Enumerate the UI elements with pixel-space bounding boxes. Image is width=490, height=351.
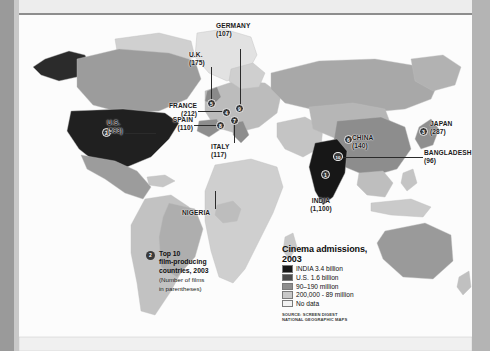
legend-title: Cinema admissions, 2003 xyxy=(282,244,410,264)
label-italy-name: ITALY xyxy=(211,143,229,150)
marker-bangladesh[interactable]: 10 xyxy=(333,152,343,161)
land-indonesia xyxy=(371,199,431,217)
label-japan: JAPAN (287) xyxy=(430,120,472,135)
label-bangladesh-value: (96) xyxy=(424,157,472,165)
label-uk-value: (175) xyxy=(189,59,229,67)
marker-france[interactable]: 4 xyxy=(222,108,231,117)
key-top-10-countries: 2 Top 10 film-producing countries, 2003 … xyxy=(146,250,266,292)
key-subtitle-line-2: in parentheses) xyxy=(159,285,266,293)
label-us-name: U.S. xyxy=(107,119,120,126)
scan-edge-right xyxy=(472,0,490,351)
label-uk: U.K. (175) xyxy=(189,51,229,66)
label-bangladesh-name: BANGLADESH xyxy=(424,149,472,156)
source-credit: SOURCE: SCREEN DIGEST NATIONAL GEOGRAPHI… xyxy=(282,312,410,322)
land-philippines xyxy=(401,169,417,191)
legend-label-nodata: No data xyxy=(296,300,319,307)
leader-line-france xyxy=(198,111,225,112)
label-uk-name: U.K. xyxy=(189,51,203,58)
label-germany: GERMANY (107) xyxy=(216,22,276,37)
key-subtitle-line-1: (Number of films xyxy=(159,276,266,284)
label-spain-name: SPAIN xyxy=(173,116,193,123)
marker-india[interactable]: 1 xyxy=(321,170,330,179)
leader-line-nigeria xyxy=(215,191,216,209)
label-nigeria-name: NIGERIA xyxy=(182,209,210,216)
marker-germany[interactable]: 9 xyxy=(235,104,244,113)
land-new-zealand xyxy=(457,271,471,295)
infographic-page: 2 5 9 4 8 7 1 6 3 10 U.S. (593) U.K. (17… xyxy=(0,0,490,351)
legend-swatch-200k-89 xyxy=(282,291,293,298)
label-germany-value: (107) xyxy=(216,30,276,38)
label-china-name: CHINA xyxy=(352,134,373,141)
leader-line-uk xyxy=(211,67,212,101)
legend-row-200k-89: 200,000 - 89 million xyxy=(282,291,410,299)
legend-row-nodata: No data xyxy=(282,299,410,307)
land-mexico xyxy=(81,155,151,199)
label-india: INDIA (1,100) xyxy=(297,197,345,212)
legend-row-india: INDIA 3.4 billion xyxy=(282,265,410,273)
legend-row-90-190: 90–190 million xyxy=(282,282,410,290)
label-italy: ITALY (117) xyxy=(211,143,251,158)
leader-line-bangladesh xyxy=(339,157,423,158)
source-line-2: NATIONAL GEOGRAPHIC MAPS xyxy=(282,317,410,322)
key-marker-sample: 2 xyxy=(146,251,155,260)
label-france: FRANCE (212) xyxy=(145,102,197,117)
legend-label-200k-89: 200,000 - 89 million xyxy=(296,291,354,298)
land-caribbean xyxy=(147,175,175,187)
label-india-value: (1,100) xyxy=(297,205,345,213)
scan-edge-left xyxy=(0,0,14,351)
legend-swatch-india xyxy=(282,265,293,272)
label-nigeria: NIGERIA xyxy=(182,209,232,217)
legend-swatch-90-190 xyxy=(282,283,293,290)
legend-label-us: U.S. 1.6 billion xyxy=(296,274,339,281)
key-title-line-3: countries, 2003 xyxy=(159,267,266,275)
land-southeast-asia xyxy=(357,171,393,197)
label-japan-name: JAPAN xyxy=(430,120,452,127)
key-title-line-2: film-producing xyxy=(159,258,266,266)
leader-line-germany xyxy=(240,49,241,107)
legend-cinema-admissions: Cinema admissions, 2003 INDIA 3.4 billio… xyxy=(282,244,410,322)
label-germany-name: GERMANY xyxy=(216,22,250,29)
marker-japan[interactable]: 3 xyxy=(419,127,428,136)
label-spain-value: (110) xyxy=(145,124,193,132)
legend-label-90-190: 90–190 million xyxy=(296,283,339,290)
marker-spain[interactable]: 8 xyxy=(216,121,225,130)
legend-label-india: INDIA 3.4 billion xyxy=(296,265,343,272)
legend-title-year: 2003 xyxy=(282,254,410,264)
label-china: CHINA (140) xyxy=(352,134,392,149)
land-antarctica xyxy=(19,337,472,351)
legend-swatch-us xyxy=(282,274,293,281)
label-india-name: INDIA xyxy=(312,197,330,204)
label-france-name: FRANCE xyxy=(169,102,197,109)
label-spain: SPAIN (110) xyxy=(145,116,193,131)
key-title-line-1: Top 10 xyxy=(159,250,266,258)
legend-title-text: Cinema admissions, xyxy=(282,244,367,254)
legend-row-us: U.S. 1.6 billion xyxy=(282,274,410,282)
label-china-value: (140) xyxy=(352,142,392,150)
label-japan-value: (287) xyxy=(430,128,472,136)
label-italy-value: (117) xyxy=(211,151,251,159)
marker-italy[interactable]: 7 xyxy=(230,116,239,125)
label-bangladesh: BANGLADESH (96) xyxy=(424,149,472,164)
scan-edge-top xyxy=(19,0,472,13)
legend-swatch-nodata xyxy=(282,300,293,307)
marker-uk[interactable]: 5 xyxy=(207,99,216,108)
